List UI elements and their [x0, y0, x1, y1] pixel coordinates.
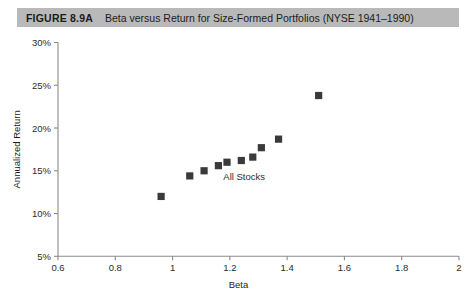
chart-annotations: All Stocks: [223, 171, 265, 182]
data-point-marker: [223, 159, 230, 166]
data-point-series: [158, 92, 323, 200]
data-point-marker: [238, 157, 245, 164]
x-axis-title: Beta: [229, 279, 249, 290]
scatter-chart: 5%10%15%20%25%30% 0.60.811.21.41.61.82 A…: [0, 0, 471, 293]
x-axis-ticks: 0.60.811.21.41.61.82: [51, 256, 461, 273]
x-tick-label: 1.2: [223, 262, 236, 273]
chart-plot-area: 5%10%15%20%25%30% 0.60.811.21.41.61.82 A…: [0, 0, 471, 293]
x-tick-label: 2: [456, 262, 461, 273]
series-annotation-label: All Stocks: [223, 171, 265, 182]
data-point-marker: [258, 144, 265, 151]
data-point-marker: [275, 136, 282, 143]
x-tick-label: 1: [170, 262, 175, 273]
y-axis-title: Annualized Return: [11, 110, 22, 188]
y-tick-label: 30%: [32, 37, 52, 48]
y-tick-label: 10%: [32, 208, 52, 219]
data-point-marker: [186, 172, 193, 179]
x-tick-label: 1.6: [338, 262, 351, 273]
y-tick-label: 5%: [37, 251, 51, 262]
data-point-marker: [249, 153, 256, 160]
data-point-marker: [200, 167, 207, 174]
y-tick-label: 25%: [32, 80, 52, 91]
data-point-marker: [315, 92, 322, 99]
y-tick-label: 15%: [32, 165, 52, 176]
data-point-marker: [158, 193, 165, 200]
y-axis-ticks: 5%10%15%20%25%30%: [32, 37, 58, 262]
x-tick-label: 0.8: [109, 262, 122, 273]
x-tick-label: 0.6: [51, 262, 64, 273]
y-tick-label: 20%: [32, 123, 52, 134]
x-tick-label: 1.4: [281, 262, 294, 273]
x-tick-label: 1.8: [395, 262, 408, 273]
data-point-marker: [215, 162, 222, 169]
